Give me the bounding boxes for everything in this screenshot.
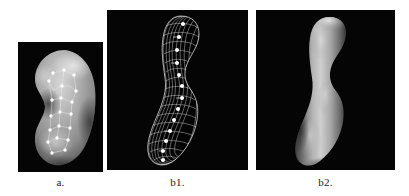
wireframe-mesh-render bbox=[107, 10, 248, 170]
surface-highlight-top bbox=[53, 51, 93, 81]
surface-shadow-notch bbox=[35, 88, 61, 120]
tube-mid-highlight bbox=[318, 82, 334, 118]
kidney-surface-render bbox=[18, 42, 103, 172]
surface-highlight-bottom bbox=[38, 127, 74, 157]
shaded-tube-render bbox=[256, 10, 395, 170]
tube-left-shadow bbox=[291, 108, 309, 152]
panel-b1-wireframe-mesh-tube bbox=[107, 10, 248, 170]
surface-highlight-left bbox=[33, 65, 57, 87]
panel-b2-shaded-tube-surface bbox=[256, 10, 395, 170]
tube-upper-highlight bbox=[313, 29, 331, 61]
tube-top-cap-highlight bbox=[314, 14, 346, 32]
surface-shadow-right bbox=[77, 96, 103, 148]
caption-panel-a: a. bbox=[18, 176, 103, 189]
caption-panel-b2: b2. bbox=[256, 176, 395, 189]
caption-panel-b1: b1. bbox=[107, 176, 248, 189]
tube-right-shadow bbox=[334, 50, 354, 90]
figure-panels: a. b1. b2. bbox=[0, 0, 409, 196]
panel-a-shaded-kidney-surface bbox=[18, 42, 103, 172]
